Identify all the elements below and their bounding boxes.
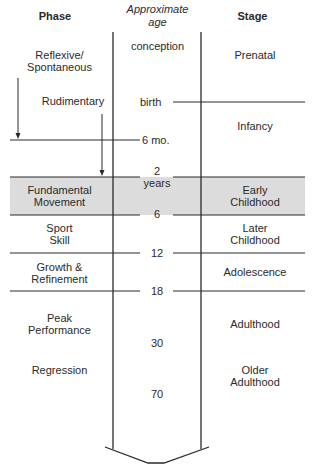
age-label-line1: 2 <box>140 165 174 177</box>
stage-label-line2: Childhood <box>205 196 305 208</box>
age-header-line2: age <box>115 16 200 29</box>
age-header-line1: Approximate <box>115 3 200 16</box>
stage-label-line1: Older <box>205 364 305 376</box>
stage-header: Stage <box>215 10 290 22</box>
stage-label-line1: Later <box>205 222 305 234</box>
phase-growth-refinement: Growth & Refinement <box>12 261 107 285</box>
stage-label-line2: Adulthood <box>205 376 305 388</box>
phase-label-line1: Reflexive/ <box>12 49 107 61</box>
age-seventy: 70 <box>140 388 174 400</box>
reflexive-arrow-head-icon <box>16 133 21 139</box>
phase-sport-skill: Sport Skill <box>12 222 107 246</box>
phase-label-line2: Skill <box>12 234 107 246</box>
stage-label-line1: Adulthood <box>205 318 305 330</box>
stage-label-line1: Prenatal <box>205 49 305 61</box>
phase-fundamental-movement: Fundamental Movement <box>12 184 107 208</box>
stage-label-line1: Infancy <box>205 120 305 132</box>
age-eighteen: 18 <box>140 285 174 297</box>
age-birth: birth <box>140 96 174 108</box>
age-thirty: 30 <box>140 337 174 349</box>
age-twelve: 12 <box>140 247 174 259</box>
age-label-line2: years <box>140 177 174 189</box>
age-header: Approximate age <box>115 3 200 29</box>
stage-adolescence: Adolescence <box>205 266 305 278</box>
phase-label-line1: Sport <box>12 222 107 234</box>
stage-early-childhood: Early Childhood <box>205 184 305 208</box>
phase-label-line2: Refinement <box>12 273 107 285</box>
rudimentary-arrow-head-icon <box>100 170 105 176</box>
phase-header: Phase <box>20 10 90 22</box>
phase-peak-performance: Peak Performance <box>12 312 107 336</box>
phase-reflexive: Reflexive/ Spontaneous <box>12 49 107 73</box>
phase-label-line1: Peak <box>12 312 107 324</box>
stage-later-childhood: Later Childhood <box>205 222 305 246</box>
phase-label-line1: Regression <box>12 364 107 376</box>
phase-label-line1: Growth & <box>12 261 107 273</box>
stage-adulthood: Adulthood <box>205 318 305 330</box>
age-six-months: 6 mo. <box>142 134 182 146</box>
stage-label-line1: Early <box>205 184 305 196</box>
stage-label-line1: Adolescence <box>205 266 305 278</box>
stage-label-line2: Childhood <box>205 234 305 246</box>
phase-label-line1: Fundamental <box>12 184 107 196</box>
phase-regression: Regression <box>12 364 107 376</box>
age-two-years: 2 years <box>140 165 174 189</box>
phase-label-line2: Spontaneous <box>12 61 107 73</box>
age-six: 6 <box>140 208 174 220</box>
phase-label-line2: Movement <box>12 196 107 208</box>
stage-prenatal: Prenatal <box>205 49 305 61</box>
stage-infancy: Infancy <box>205 120 305 132</box>
bottom-chevron-arrow-icon <box>105 447 209 463</box>
stage-older-adulthood: Older Adulthood <box>205 364 305 388</box>
phase-label-line1: Rudimentary <box>38 95 108 107</box>
age-conception: conception <box>115 40 200 52</box>
phase-label-line2: Performance <box>12 324 107 336</box>
phase-rudimentary: Rudimentary <box>38 95 108 107</box>
